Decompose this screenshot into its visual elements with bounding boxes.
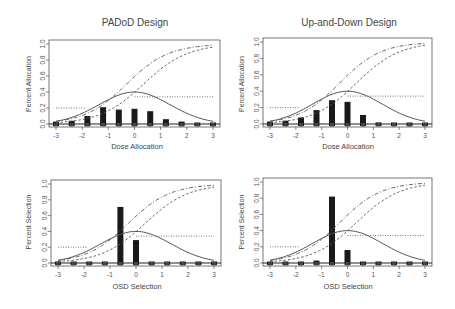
plot-area: 0.00.20.40.60.81.0-3-2-10123 — [0, 0, 455, 309]
y-tick-label: 0.6 — [253, 210, 260, 219]
x-tick-label: -1 — [319, 271, 325, 278]
x-tick-label: -3 — [267, 271, 273, 278]
x-tick-label: 2 — [397, 271, 401, 278]
y-tick-label: 0.0 — [253, 258, 260, 267]
panel-updown-selection: Percent Selection OSD Selection 0.00.20.… — [0, 0, 455, 309]
x-tick-label: 1 — [372, 271, 376, 278]
dash-dot-curve — [270, 183, 425, 260]
bar — [329, 197, 335, 265]
x-tick-label: 3 — [423, 271, 427, 278]
x-tick-label: -2 — [293, 271, 299, 278]
x-tick-label: 0 — [346, 271, 350, 278]
y-tick-label: 1.0 — [253, 177, 260, 186]
y-tick-label: 0.2 — [253, 242, 260, 251]
y-tick-label: 0.8 — [253, 193, 260, 202]
y-tick-label: 0.4 — [253, 226, 260, 235]
